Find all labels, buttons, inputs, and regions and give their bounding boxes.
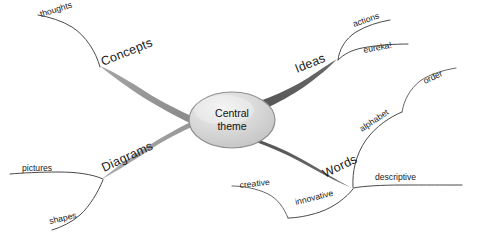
subbranch-label-actions: actions: [351, 11, 380, 29]
branch-label-diagrams: Diagrams: [99, 139, 155, 175]
central-node-label-line1: Central: [215, 107, 249, 119]
mind-map-canvas: Central theme Concepts Ideas Diagrams Wo…: [0, 0, 477, 238]
subbranch-pictures[interactable]: [10, 172, 103, 179]
subbranch-label-eureka: eureka!: [362, 40, 392, 55]
subbranch-label-order: order: [422, 68, 445, 86]
subbranch-label-innovative: innovative: [294, 188, 334, 207]
mind-map-diagram: Central theme Concepts Ideas Diagrams Wo…: [0, 0, 477, 238]
subbranch-label-thoughts: thoughts: [39, 0, 73, 19]
subbranch-label-shapes: shapes: [48, 210, 77, 226]
subbranch-thoughts[interactable]: [38, 15, 100, 67]
branch-label-concepts: Concepts: [99, 35, 155, 68]
subbranch-descriptive[interactable]: [353, 185, 462, 188]
central-node-label-line2: theme: [217, 120, 246, 132]
subbranch-creative[interactable]: [232, 186, 288, 218]
subbranch-label-creative: creative: [239, 177, 270, 190]
central-node[interactable]: Central theme: [189, 92, 275, 148]
subbranch-label-pictures: pictures: [22, 163, 52, 173]
subbranch-label-descriptive: descriptive: [375, 172, 416, 182]
